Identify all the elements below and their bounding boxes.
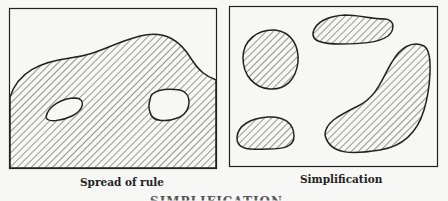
caption-spread-of-rule: Spread of rule [80,176,164,188]
blob-top [313,15,393,44]
clipped-heading: SIMPLIFICATION [150,195,283,201]
panel-simplification [230,7,438,167]
diagram-figure [0,0,448,201]
panel-spread-of-rule [10,9,217,169]
blob-circle [243,30,298,89]
caption-simplification: Simplification [300,173,382,185]
